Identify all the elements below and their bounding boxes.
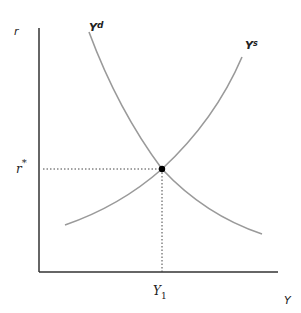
y1-sub: 1	[161, 291, 167, 301]
ys-label: Ys	[245, 39, 258, 52]
yd-sup: d	[97, 20, 104, 30]
ys-curve	[65, 57, 242, 225]
is-lm-diagram: r Y r* Y1 Yd Ys	[0, 0, 301, 313]
r-star-label: r*	[16, 157, 27, 176]
y-axis-label: r	[14, 25, 20, 38]
yd-label: Yd	[89, 20, 104, 34]
r-star-sup: *	[22, 157, 27, 168]
equilibrium-point	[159, 166, 165, 172]
x-axis-label: Y	[284, 294, 292, 307]
y1-label: Y1	[153, 284, 167, 301]
yd-curve	[89, 32, 262, 234]
ys-sup: s	[253, 39, 258, 48]
